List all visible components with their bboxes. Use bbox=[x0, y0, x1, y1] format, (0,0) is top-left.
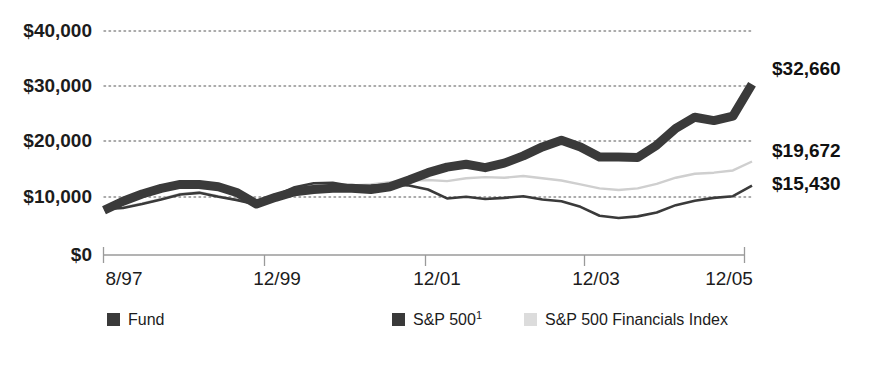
legend: Fund S&P 5001 S&P 500 Financials Index bbox=[107, 309, 728, 328]
x-axis-tick-labels: 8/97 12/99 12/01 12/03 12/05 bbox=[106, 268, 753, 289]
xtick-label-0: 8/97 bbox=[106, 268, 143, 289]
xtick-label-2: 12/01 bbox=[413, 268, 461, 289]
xtick-label-3: 12/03 bbox=[572, 268, 620, 289]
xtick-label-1: 12/99 bbox=[253, 268, 301, 289]
ytick-label-40000: $40,000 bbox=[23, 20, 92, 41]
ytick-label-30000: $30,000 bbox=[23, 75, 92, 96]
growth-of-investment-chart: $40,000 $30,000 $20,000 $10,000 $0 8/97 … bbox=[0, 0, 874, 370]
data-series-group bbox=[104, 84, 752, 218]
end-label-sp500: $15,430 bbox=[772, 173, 841, 194]
legend-label-financials: S&P 500 Financials Index bbox=[545, 311, 728, 328]
legend-swatch-financials bbox=[524, 313, 537, 326]
end-label-financials: $19,672 bbox=[772, 140, 841, 161]
y-axis-tick-labels: $40,000 $30,000 $20,000 $10,000 $0 bbox=[23, 20, 92, 265]
legend-label-sp500-text: S&P 500 bbox=[413, 311, 476, 328]
series-line-fund bbox=[104, 84, 752, 210]
legend-swatch-sp500 bbox=[392, 313, 405, 326]
chart-canvas: $40,000 $30,000 $20,000 $10,000 $0 8/97 … bbox=[0, 0, 874, 370]
legend-label-fund: Fund bbox=[128, 311, 164, 328]
xtick-label-4: 12/05 bbox=[705, 268, 753, 289]
legend-label-sp500-superscript: 1 bbox=[476, 309, 482, 321]
legend-swatch-fund bbox=[107, 313, 120, 326]
legend-label-sp500: S&P 5001 bbox=[413, 309, 482, 328]
ytick-label-0: $0 bbox=[71, 244, 92, 265]
end-value-labels: $32,660 $19,672 $15,430 bbox=[772, 58, 841, 194]
ytick-label-10000: $10,000 bbox=[23, 186, 92, 207]
x-axis bbox=[103, 247, 745, 266]
end-label-fund: $32,660 bbox=[772, 58, 841, 79]
ytick-label-20000: $20,000 bbox=[23, 130, 92, 151]
